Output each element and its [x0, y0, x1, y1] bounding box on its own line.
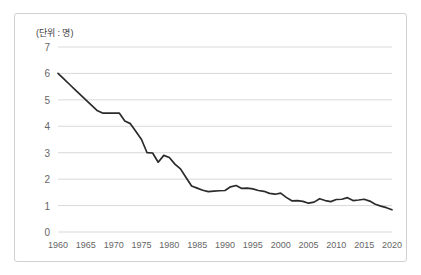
chart-frame — [14, 13, 407, 262]
x-axis-tick-label: 1995 — [243, 240, 263, 250]
x-axis-tick-label: 1970 — [104, 240, 124, 250]
x-axis-tick-label: 2020 — [382, 240, 402, 250]
x-axis-tick-label: 2000 — [271, 240, 291, 250]
x-axis-tick-label: 1990 — [215, 240, 235, 250]
y-axis-tick-label: 6 — [28, 68, 50, 79]
x-axis-tick-label: 1975 — [131, 240, 151, 250]
x-axis-tick-label: 1960 — [48, 240, 68, 250]
x-axis-tick-label: 2005 — [298, 240, 318, 250]
x-axis-tick-label: 1965 — [76, 240, 96, 250]
x-axis-tick-label: 1980 — [159, 240, 179, 250]
y-axis-tick-label: 4 — [28, 121, 50, 132]
y-axis-tick-label: 0 — [28, 227, 50, 238]
y-axis-tick-label: 7 — [28, 42, 50, 53]
x-axis-tick-label: 2010 — [326, 240, 346, 250]
x-axis-tick-label: 2015 — [354, 240, 374, 250]
y-axis-tick-label: 2 — [28, 174, 50, 185]
unit-label: (단위 : 명) — [36, 26, 74, 39]
y-axis-tick-label: 1 — [28, 200, 50, 211]
y-axis-tick-label: 3 — [28, 147, 50, 158]
y-axis-tick-label: 5 — [28, 94, 50, 105]
x-axis-tick-label: 1985 — [187, 240, 207, 250]
chart-figure: (단위 : 명) 01234567 1960196519701975198019… — [0, 0, 421, 275]
